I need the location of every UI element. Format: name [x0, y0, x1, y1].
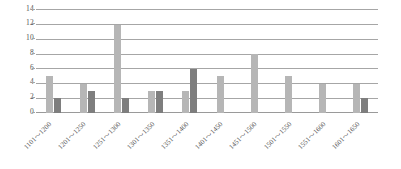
bar — [361, 98, 368, 113]
bar — [251, 54, 258, 113]
y-tick-mark — [32, 112, 35, 113]
bar — [190, 69, 197, 113]
y-tick-label: 10 — [12, 34, 34, 42]
x-tick-label: 1301～1350 — [125, 120, 156, 151]
bar-chart: 14 12 10 8 6 4 2 0 1101～12001201～1250125… — [0, 0, 401, 169]
y-tick-label: 4 — [12, 78, 34, 86]
y-tick-mark — [32, 53, 35, 54]
bar — [156, 91, 163, 113]
x-tick-label: 1601～1650 — [330, 120, 361, 151]
x-tick-label: 1451～1500 — [228, 120, 259, 151]
y-tick-mark — [32, 82, 35, 83]
y-tick-mark — [32, 23, 35, 24]
y-tick-label: 12 — [12, 19, 34, 27]
x-tick-label: 1401～1450 — [194, 120, 225, 151]
x-tick-label: 1101～1200 — [23, 120, 54, 151]
bar — [88, 91, 95, 113]
bar-group — [173, 9, 207, 113]
y-tick-mark — [32, 9, 35, 10]
x-tick-label: 1251～1300 — [91, 120, 122, 151]
bar-group — [344, 9, 378, 113]
bar — [46, 76, 53, 113]
y-tick-label: 8 — [12, 49, 34, 57]
bar-group — [241, 9, 275, 113]
x-tick-label: 1351～1400 — [159, 120, 190, 151]
bar — [54, 98, 61, 113]
x-tick-label: 1201～1250 — [57, 120, 88, 151]
bar-group — [36, 9, 70, 113]
x-axis: 1101～12001201～12501251～13001301～13501351… — [36, 113, 378, 169]
bar-group — [70, 9, 104, 113]
y-tick-mark — [32, 38, 35, 39]
bar-group — [104, 9, 138, 113]
y-tick-label: 6 — [12, 64, 34, 72]
y-tick-label: 2 — [12, 93, 34, 101]
bar-group — [310, 9, 344, 113]
plot-area — [36, 9, 378, 113]
bar — [122, 98, 129, 113]
bar — [80, 84, 87, 113]
bar — [319, 84, 326, 113]
bar — [182, 91, 189, 113]
bar-group — [275, 9, 309, 113]
bar — [148, 91, 155, 113]
y-tick-label: 14 — [12, 5, 34, 13]
bar — [285, 76, 292, 113]
y-tick-mark — [32, 97, 35, 98]
bar-group — [207, 9, 241, 113]
bar — [114, 25, 121, 113]
bar — [217, 76, 224, 113]
bar — [353, 84, 360, 113]
x-tick-label: 1551～1600 — [296, 120, 327, 151]
bar-group — [139, 9, 173, 113]
y-tick-label: 0 — [12, 108, 34, 116]
x-tick-label: 1501～1550 — [262, 120, 293, 151]
y-tick-mark — [32, 68, 35, 69]
